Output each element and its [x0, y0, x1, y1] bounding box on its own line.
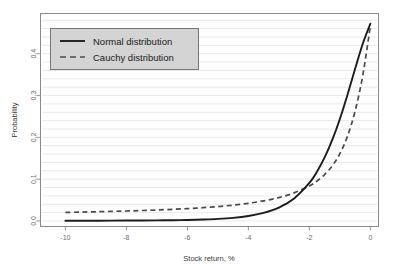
y-axis-title: Probability — [10, 102, 19, 137]
x-tick-label: -4 — [245, 234, 251, 241]
x-tick-label: 0 — [368, 234, 372, 241]
y-tick-label: 0.0 — [30, 216, 37, 226]
chart-svg: -10-8-6-4-20 0.00.10.20.30.4 Stock retur… — [0, 0, 409, 268]
y-tick-label: 0.2 — [30, 132, 37, 142]
y-tick-label: 0.1 — [30, 174, 37, 184]
x-tick-label: -10 — [60, 234, 70, 241]
x-tick-label: -8 — [123, 234, 129, 241]
legend-label-cauchy-distribution: Cauchy distribution — [93, 52, 174, 63]
y-tick-label: 0.4 — [30, 49, 37, 59]
x-tick-label: -6 — [184, 234, 190, 241]
legend-label-normal-distribution: Normal distribution — [93, 36, 172, 47]
x-tick-label: -2 — [306, 234, 312, 241]
chart-legend[interactable]: Normal distribution Cauchy distribution — [51, 29, 199, 70]
y-tick-label: 0.3 — [30, 91, 37, 101]
chart-container: -10-8-6-4-20 0.00.10.20.30.4 Stock retur… — [0, 0, 409, 268]
x-axis-title: Stock return, % — [183, 254, 235, 263]
